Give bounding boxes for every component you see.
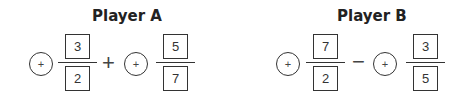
denominator-box-a1[interactable]: 2: [65, 66, 90, 91]
denominator-box-b1[interactable]: 2: [313, 66, 338, 91]
numerator-box-b1[interactable]: 7: [313, 34, 338, 59]
numerator-box-b2[interactable]: 3: [413, 34, 438, 59]
sign-toggle-a1[interactable]: +: [29, 52, 53, 76]
fraction-bar: [406, 62, 445, 63]
numerator-box-a2[interactable]: 5: [163, 34, 188, 59]
operator-b: −: [352, 51, 365, 73]
fraction-bar: [306, 62, 345, 63]
operator-a: +: [102, 52, 115, 74]
numerator-box-a1[interactable]: 3: [65, 34, 90, 59]
sign-toggle-a2[interactable]: +: [124, 52, 148, 76]
denominator-box-a2[interactable]: 7: [163, 66, 188, 91]
denominator-box-b2[interactable]: 5: [413, 66, 438, 91]
fraction-bar: [156, 62, 195, 63]
player-b-title: Player B: [337, 7, 407, 25]
sign-toggle-b2[interactable]: +: [373, 52, 397, 76]
fraction-bar: [58, 62, 97, 63]
player-a-title: Player A: [92, 7, 162, 25]
sign-toggle-b1[interactable]: +: [276, 52, 300, 76]
